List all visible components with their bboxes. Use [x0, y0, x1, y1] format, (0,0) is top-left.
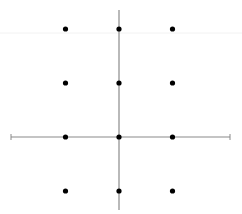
lattice-point — [63, 134, 68, 139]
lattice-point — [63, 80, 68, 85]
lattice-diagram — [0, 0, 242, 214]
axes — [11, 10, 230, 210]
lattice-point — [116, 134, 121, 139]
lattice-point — [63, 188, 68, 193]
lattice-point — [63, 26, 68, 31]
lattice-point — [170, 188, 175, 193]
lattice-point — [116, 80, 121, 85]
lattice-point — [170, 26, 175, 31]
lattice-point — [116, 26, 121, 31]
lattice-point — [116, 188, 121, 193]
lattice-point — [170, 134, 175, 139]
lattice-point — [170, 80, 175, 85]
